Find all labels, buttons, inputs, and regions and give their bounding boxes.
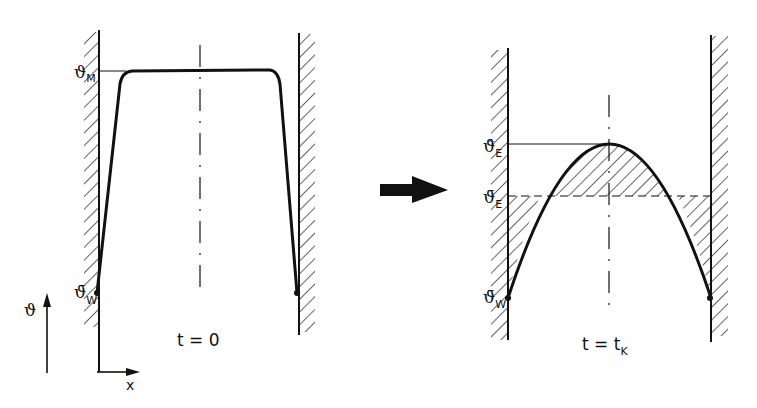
left-panel: ϑM ϑ̄W ϑ x t = 0 (24, 30, 315, 393)
x-axis: x (97, 368, 140, 393)
right-wall-hatch (711, 36, 728, 336)
right-panel: ϑ̂E ϑ̄E ϑ̄W t = tK (483, 35, 728, 358)
transition-arrow-icon (380, 176, 448, 203)
right-small-arrow-icon (126, 368, 140, 376)
diagram-canvas: ϑM ϑ̄W ϑ x t = 0 (0, 0, 757, 408)
right-wall-point (294, 290, 300, 296)
x-axis-label: x (126, 377, 134, 393)
right-wall-hatch (299, 34, 315, 332)
theta-axis: ϑ (24, 293, 51, 373)
right-wall-point (707, 295, 713, 301)
caption-t0: t = 0 (177, 330, 220, 350)
theta-axis-label: ϑ (24, 300, 36, 320)
caption-tk: t = tK (582, 334, 628, 358)
initial-temperature-profile (97, 70, 297, 293)
up-arrow-icon (43, 293, 51, 307)
